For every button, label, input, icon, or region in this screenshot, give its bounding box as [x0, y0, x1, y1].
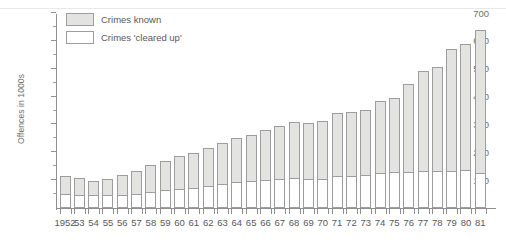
bar-crimes-known: [74, 178, 85, 208]
x-tick: [317, 209, 318, 214]
bar-crimes-known: [60, 176, 71, 208]
scan-artifact-line: [0, 8, 506, 9]
x-tick: [145, 209, 146, 214]
bar-crimes-known: [246, 135, 257, 208]
y-tick-minor: [53, 165, 56, 166]
chart-legend: Crimes known Crimes 'cleared up': [66, 11, 246, 47]
bar-segment-crimes-cleared-up: [60, 194, 71, 208]
x-tick: [289, 209, 290, 214]
y-tick-minor: [53, 26, 56, 27]
bar-crimes-known: [317, 121, 328, 208]
y-tick-major: [51, 40, 56, 41]
x-tick: [389, 209, 390, 214]
y-tick-minor: [53, 54, 56, 55]
x-tick: [418, 209, 419, 214]
x-tick: [99, 209, 100, 214]
x-tick: [217, 209, 218, 214]
x-tick: [156, 209, 157, 214]
bar-segment-crimes-cleared-up: [74, 195, 85, 208]
bar-crimes-known: [117, 175, 128, 208]
x-axis-labels: 1952535455565758596061626364656667686970…: [56, 218, 498, 234]
bar-crimes-known: [145, 165, 156, 208]
legend-swatch-crimes-cleared-up: [66, 31, 94, 44]
bar-crimes-known: [217, 143, 228, 208]
x-tick-label: 81: [472, 218, 488, 228]
y-axis-label: Offences in 1000s: [16, 44, 26, 174]
bar-crimes-known: [460, 44, 471, 208]
y-tick-minor: [53, 137, 56, 138]
bar-segment-crimes-cleared-up: [389, 172, 400, 208]
x-tick: [102, 209, 103, 214]
x-tick: [271, 209, 272, 214]
x-tick: [160, 209, 161, 214]
legend-item-crimes-known: Crimes known: [66, 11, 246, 27]
bar-segment-crimes-cleared-up: [403, 172, 414, 208]
bar-crimes-known: [260, 130, 271, 208]
x-tick: [457, 209, 458, 214]
x-tick: [74, 209, 75, 214]
bar-segment-crimes-cleared-up: [274, 179, 285, 208]
x-tick: [188, 209, 189, 214]
x-tick: [260, 209, 261, 214]
bar-crimes-known: [332, 113, 343, 208]
bar-crimes-known: [375, 101, 386, 208]
x-tick: [203, 209, 204, 214]
x-tick: [371, 209, 372, 214]
bar-crimes-known: [289, 122, 300, 208]
bar-crimes-known: [131, 171, 142, 208]
bar-segment-crimes-cleared-up: [460, 170, 471, 208]
x-tick: [360, 209, 361, 214]
x-tick: [71, 209, 72, 214]
bar-crimes-known: [231, 138, 242, 208]
x-tick: [314, 209, 315, 214]
bar-segment-crimes-cleared-up: [446, 171, 457, 208]
bar-segment-crimes-cleared-up: [102, 195, 113, 208]
bar-crimes-known: [418, 71, 429, 208]
x-tick: [131, 209, 132, 214]
bar-segment-crimes-cleared-up: [246, 181, 257, 208]
x-tick: [128, 209, 129, 214]
bar-segment-crimes-cleared-up: [360, 175, 371, 208]
y-tick-minor: [53, 82, 56, 83]
bar-crimes-known: [360, 110, 371, 208]
bar-crimes-known: [475, 30, 486, 208]
bar-segment-crimes-cleared-up: [317, 179, 328, 208]
x-tick: [446, 209, 447, 214]
bar-segment-crimes-cleared-up: [145, 192, 156, 208]
x-tick: [142, 209, 143, 214]
x-tick: [346, 209, 347, 214]
x-tick: [113, 209, 114, 214]
x-tick: [60, 209, 61, 214]
x-tick: [328, 209, 329, 214]
bar-segment-crimes-cleared-up: [174, 189, 185, 208]
x-tick: [242, 209, 243, 214]
bar-segment-crimes-cleared-up: [203, 186, 214, 208]
y-tick-minor: [53, 193, 56, 194]
x-tick: [400, 209, 401, 214]
x-tick: [357, 209, 358, 214]
legend-swatch-crimes-known: [66, 13, 94, 26]
x-tick: [257, 209, 258, 214]
bar-segment-crimes-cleared-up: [418, 171, 429, 208]
bar-segment-crimes-cleared-up: [160, 190, 171, 208]
x-tick: [432, 209, 433, 214]
y-tick-major: [51, 68, 56, 69]
x-tick: [343, 209, 344, 214]
y-tick-major: [51, 151, 56, 152]
x-tick: [300, 209, 301, 214]
bar-segment-crimes-cleared-up: [303, 179, 314, 208]
x-tick: [443, 209, 444, 214]
x-tick: [486, 209, 487, 214]
bar-segment-crimes-cleared-up: [117, 195, 128, 208]
bar-segment-crimes-cleared-up: [375, 173, 386, 208]
bar-crimes-known: [88, 181, 99, 208]
bar-crimes-known: [102, 179, 113, 208]
bar-crimes-known: [432, 67, 443, 208]
x-tick: [117, 209, 118, 214]
bar-crimes-known: [303, 123, 314, 208]
x-tick: [332, 209, 333, 214]
legend-label-crimes-known: Crimes known: [101, 14, 161, 25]
bar-segment-crimes-cleared-up: [231, 182, 242, 208]
x-tick: [88, 209, 89, 214]
bar-segment-crimes-cleared-up: [432, 171, 443, 208]
